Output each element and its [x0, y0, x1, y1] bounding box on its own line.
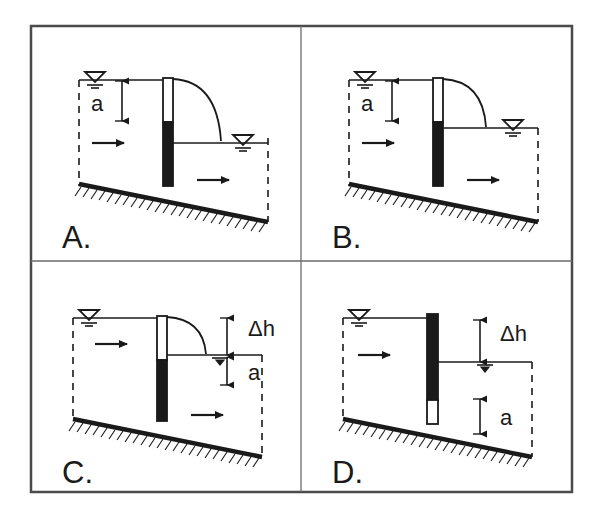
- gate-opening-B: [433, 78, 443, 122]
- figure-svg: a A.: [0, 0, 602, 517]
- dimension-label-a-A: a: [91, 91, 104, 116]
- dimension-label-a-C: a: [248, 360, 261, 385]
- dimension-label-dh-D: Δh: [500, 321, 527, 346]
- gate-opening-D: [427, 400, 438, 424]
- gate-body-D: [427, 314, 438, 400]
- dimension-label-a-B: a: [361, 91, 374, 116]
- dimension-label-a-D: a: [500, 405, 513, 430]
- gate-body-B: [433, 122, 443, 186]
- panel-label-C: C.: [62, 455, 93, 490]
- gate-body-C: [157, 360, 167, 421]
- gate-opening-C: [157, 316, 167, 360]
- gate-body-A: [163, 122, 173, 186]
- hydraulic-gate-figure: a A.: [0, 0, 602, 517]
- panel-label-B: B.: [332, 220, 361, 255]
- panel-label-A: A.: [62, 220, 91, 255]
- dimension-label-dh-C: Δh: [248, 316, 275, 341]
- panel-label-D: D.: [332, 455, 363, 490]
- gate-opening-A: [163, 78, 173, 122]
